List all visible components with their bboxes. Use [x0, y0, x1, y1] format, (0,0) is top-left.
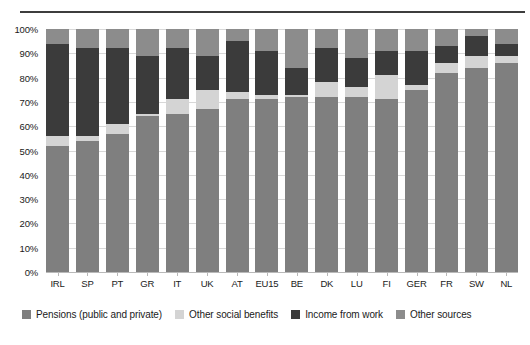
bar-segment[interactable]	[196, 29, 219, 56]
bar-segment[interactable]	[226, 99, 249, 272]
bar-column[interactable]	[76, 29, 99, 272]
bar-segment[interactable]	[495, 44, 518, 56]
bar-segment[interactable]	[46, 29, 69, 44]
bar-segment[interactable]	[106, 134, 129, 273]
bar-segment[interactable]	[345, 97, 368, 272]
bar-segment[interactable]	[106, 29, 129, 48]
bar-column[interactable]	[405, 29, 428, 272]
bar-segment[interactable]	[465, 36, 488, 55]
bar-column[interactable]	[226, 29, 249, 272]
bar-column[interactable]	[315, 29, 338, 272]
bar-segment[interactable]	[345, 58, 368, 87]
bar-segment[interactable]	[315, 48, 338, 82]
bar-segment[interactable]	[196, 90, 219, 109]
x-axis-tick-irl[interactable]: IRL	[46, 272, 69, 294]
x-axis-tick-fi[interactable]: FI	[375, 272, 398, 294]
bar-segment[interactable]	[196, 56, 219, 90]
bar-segment[interactable]	[136, 29, 159, 56]
bar-column[interactable]	[375, 29, 398, 272]
bar-segment[interactable]	[315, 82, 338, 97]
bar-segment[interactable]	[435, 29, 458, 46]
bar-segment[interactable]	[76, 48, 99, 135]
bar-segment[interactable]	[226, 41, 249, 92]
bar-segment[interactable]	[465, 68, 488, 272]
bar-segment[interactable]	[166, 48, 189, 99]
bar-segment[interactable]	[495, 63, 518, 272]
bar-segment[interactable]	[465, 56, 488, 68]
bar-segment[interactable]	[285, 29, 308, 68]
bar-column[interactable]	[465, 29, 488, 272]
bar-segment[interactable]	[315, 29, 338, 48]
bar-segment[interactable]	[226, 29, 249, 41]
bar-segment[interactable]	[136, 116, 159, 272]
bar-segment[interactable]	[285, 97, 308, 272]
bar-segment[interactable]	[435, 63, 458, 73]
bar-segment[interactable]	[375, 29, 398, 51]
bar-segment[interactable]	[405, 90, 428, 272]
bar-column[interactable]	[196, 29, 219, 272]
bar-segment[interactable]	[345, 87, 368, 97]
x-axis-tick-gr[interactable]: GR	[136, 272, 159, 294]
bar-segment[interactable]	[255, 99, 278, 272]
bar-segment[interactable]	[255, 29, 278, 51]
x-axis-tick-pt[interactable]: PT	[106, 272, 129, 294]
legend-item[interactable]: Other sources	[396, 309, 472, 320]
x-axis-tick-sw[interactable]: SW	[465, 272, 488, 294]
x-axis-tick-dk[interactable]: DK	[315, 272, 338, 294]
bar-segment[interactable]	[345, 29, 368, 58]
bar-column[interactable]	[106, 29, 129, 272]
bar-column[interactable]	[345, 29, 368, 272]
bar-column[interactable]	[46, 29, 69, 272]
bar-column[interactable]	[285, 29, 308, 272]
x-axis-tick-mark	[58, 272, 59, 276]
bar-segment[interactable]	[166, 99, 189, 114]
bar-segment[interactable]	[166, 114, 189, 272]
bar-segment[interactable]	[136, 56, 159, 114]
y-axis: 0%10%20%30%40%50%60%70%80%90%100%	[0, 29, 42, 272]
bar-segment[interactable]	[46, 44, 69, 136]
legend-item[interactable]: Pensions (public and private)	[22, 309, 162, 320]
legend-item[interactable]: Other social benefits	[175, 309, 278, 320]
bar-segment[interactable]	[46, 136, 69, 146]
bar-segment[interactable]	[196, 109, 219, 272]
bar-column[interactable]	[255, 29, 278, 272]
bar-segment[interactable]	[405, 51, 428, 85]
bar-segment[interactable]	[76, 29, 99, 48]
bar-segment[interactable]	[166, 29, 189, 48]
x-axis-tick-eu15[interactable]: EU15	[255, 272, 278, 294]
bar-segment[interactable]	[495, 56, 518, 63]
x-axis-tick-lu[interactable]: LU	[345, 272, 368, 294]
x-axis-tick-ger[interactable]: GER	[405, 272, 428, 294]
x-axis-tick-fr[interactable]: FR	[435, 272, 458, 294]
y-axis-tick-label: 10%	[20, 242, 38, 253]
bar-column[interactable]	[495, 29, 518, 272]
y-axis-tick-label: 70%	[20, 96, 38, 107]
x-axis-tick-be[interactable]: BE	[285, 272, 308, 294]
bar-column[interactable]	[435, 29, 458, 272]
x-axis-tick-uk[interactable]: UK	[196, 272, 219, 294]
bar-segment[interactable]	[375, 51, 398, 75]
bar-segment[interactable]	[435, 73, 458, 272]
bar-segment[interactable]	[76, 141, 99, 272]
y-axis-tick-label: 90%	[20, 48, 38, 59]
bar-segment[interactable]	[285, 68, 308, 95]
x-axis-tick-sp[interactable]: SP	[76, 272, 99, 294]
legend-item[interactable]: Income from work	[291, 309, 383, 320]
x-axis-tick-it[interactable]: IT	[166, 272, 189, 294]
bar-segment[interactable]	[46, 146, 69, 272]
bar-segment[interactable]	[375, 99, 398, 272]
bar-segment[interactable]	[106, 124, 129, 134]
x-axis-tick-nl[interactable]: NL	[495, 272, 518, 294]
x-axis-tick-at[interactable]: AT	[226, 272, 249, 294]
bar-segment[interactable]	[465, 29, 488, 36]
bar-column[interactable]	[136, 29, 159, 272]
bar-segment[interactable]	[106, 48, 129, 123]
bar-segment[interactable]	[226, 92, 249, 99]
bar-column[interactable]	[166, 29, 189, 272]
bar-segment[interactable]	[315, 97, 338, 272]
bar-segment[interactable]	[255, 51, 278, 95]
bar-segment[interactable]	[495, 29, 518, 44]
bar-segment[interactable]	[375, 75, 398, 99]
bar-segment[interactable]	[435, 46, 458, 63]
bar-segment[interactable]	[405, 29, 428, 51]
